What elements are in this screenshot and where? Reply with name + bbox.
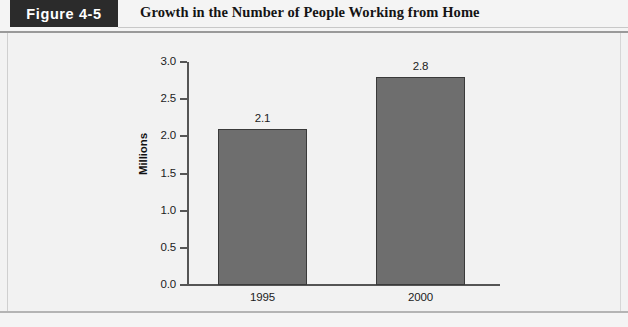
y-axis-tick-label: 2.5 bbox=[146, 92, 176, 104]
y-axis-tick-label: 1.5 bbox=[146, 167, 176, 179]
figure-container: Figure 4-5 Growth in the Number of Peopl… bbox=[0, 0, 628, 327]
y-axis-tick-mark bbox=[180, 210, 187, 212]
y-axis-tick-label: 0.5 bbox=[146, 241, 176, 253]
y-axis-tick-mark bbox=[180, 173, 187, 175]
y-axis-tick-label: 1.0 bbox=[146, 204, 176, 216]
x-axis-tick-label: 2000 bbox=[376, 291, 465, 303]
y-axis-tick-label: 0.0 bbox=[146, 278, 176, 290]
bar-chart: Millions 0.00.51.01.52.02.53.0 2.119952.… bbox=[0, 0, 628, 327]
bar-value-label: 2.8 bbox=[376, 60, 465, 72]
bar-value-label: 2.1 bbox=[218, 112, 307, 124]
y-axis-tick-mark bbox=[180, 284, 187, 286]
bar bbox=[376, 77, 465, 285]
x-axis-tick-label: 1995 bbox=[218, 291, 307, 303]
y-axis-line bbox=[187, 62, 189, 286]
y-axis-tick-label: 2.0 bbox=[146, 129, 176, 141]
y-axis-tick-mark bbox=[180, 98, 187, 100]
y-axis-tick-mark bbox=[180, 135, 187, 137]
y-axis-tick-mark bbox=[180, 247, 187, 249]
bar bbox=[218, 129, 307, 285]
y-axis-tick-mark bbox=[180, 61, 187, 63]
y-axis-tick-label: 3.0 bbox=[146, 55, 176, 67]
